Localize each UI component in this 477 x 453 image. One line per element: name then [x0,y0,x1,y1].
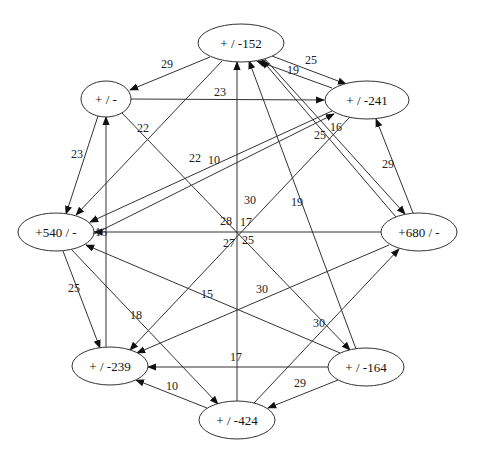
edge-weight-label: 10 [208,153,220,167]
edge-line [86,245,340,353]
graph-node-n239: + / -239 [72,347,148,385]
edge-weight-label: 16 [330,120,342,134]
graph-node-n152: + / -152 [198,24,284,62]
edge-weight-label: 29 [161,57,173,71]
node-label: +680 / - [398,225,439,240]
edge-line [63,251,100,348]
graph-node-n241: + / -241 [325,81,409,119]
edge-n164-to-n540 [86,245,340,353]
edge-weight-label: 22 [137,121,149,135]
graph-node-n424: + / -424 [199,401,275,439]
edge-line [88,114,334,237]
node-label: + / -424 [216,413,258,428]
directed-graph: + / -152+ / -241+680 / -+ / -164+ / -424… [0,0,477,453]
edge-weight-label: 25 [68,281,80,295]
graph-node-n540: +540 / - [18,213,94,251]
edge-weight-label: 17 [240,215,252,229]
edge-weight-label: 30 [244,193,256,207]
node-label: + / -241 [346,93,387,108]
graph-node-nblank: + / - [81,81,131,117]
edge-n152-to-n680 [264,58,405,214]
node-label: + / -152 [220,36,261,51]
edge-weight-label: 28 [220,214,232,228]
edge-n540-to-n239 [63,251,100,348]
edge-weight-label: 19 [291,195,303,209]
edge-nblank-to-n540 [66,116,98,214]
edge-line [264,58,405,214]
edge-weight-label: 18 [130,308,142,322]
edge-weight-label: 22 [189,151,201,165]
edge-weight-label: 16 [95,225,107,239]
edge-weight-label: 29 [294,376,306,390]
node-label: +540 / - [35,225,76,240]
edge-weight-label: 30 [313,316,325,330]
node-label: + / - [95,92,117,107]
node-label: + / -164 [345,360,387,375]
edge-weight-label: 23 [214,85,226,99]
graph-node-n680: +680 / - [381,213,457,251]
edge-weight-label: 30 [256,282,268,296]
edge-line [66,116,98,214]
edge-weight-label: 27 [223,236,235,250]
edge-weight-label: 29 [382,157,394,171]
graph-node-n164: + / -164 [328,348,404,386]
edge-weight-label: 25 [305,53,317,67]
edge-weight-label: 25 [242,233,254,247]
node-label: + / -239 [89,359,130,374]
edge-weight-label: 23 [71,147,83,161]
edge-weight-label: 10 [166,379,178,393]
edge-n540-to-n241 [88,114,334,237]
edge-weight-label: 15 [201,287,213,301]
edge-weight-label: 17 [230,350,242,364]
edge-weight-label: 19 [287,63,299,77]
edge-weight-label: 25 [314,128,326,142]
